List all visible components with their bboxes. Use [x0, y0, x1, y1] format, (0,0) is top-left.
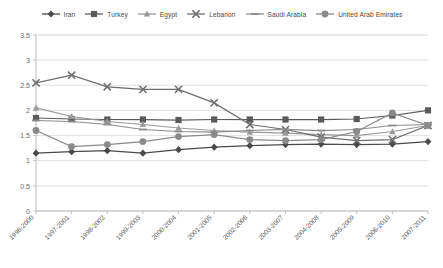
- marker-circle: [389, 110, 396, 117]
- marker-circle: [33, 127, 40, 134]
- marker-circle: [104, 141, 111, 148]
- x-tick-label: 2002-2006: [221, 214, 248, 241]
- x-tick-label: 2005-2009: [328, 214, 355, 241]
- marker-circle: [68, 143, 75, 150]
- series-line: [36, 142, 428, 154]
- legend-item-label: Iran: [64, 11, 76, 18]
- legend-marker-square-icon: [84, 9, 104, 19]
- chart-legend: IranTurkeyEgyptLebanonSaudi ArabiaUnited…: [0, 4, 443, 24]
- legend-marker-triangle-icon: [137, 9, 157, 19]
- x-tick-label: 2001-2005: [186, 214, 213, 241]
- legend-marker-cross-icon: [186, 9, 206, 19]
- x-tick-labels: 1996-20001997-20011998-20021999-20032000…: [7, 211, 428, 241]
- marker-square: [425, 107, 431, 113]
- chart-plot-area: 3.532.521.510.501996-20001997-20011998-2…: [0, 0, 443, 268]
- marker-circle: [353, 128, 360, 135]
- series-egypt: [33, 105, 431, 139]
- x-tick-label: 2006-2010: [364, 214, 391, 241]
- x-tick-label: 1999-2003: [114, 214, 141, 241]
- marker-square: [354, 116, 360, 122]
- marker-diamond: [47, 10, 54, 17]
- x-tick-label: 1998-2002: [79, 214, 106, 241]
- x-tick-label: 2007-2011: [400, 214, 427, 241]
- legend-symbol: [322, 11, 329, 18]
- legend-item-united-arab-emirates[interactable]: United Arab Emirates: [315, 9, 402, 19]
- legend-item-lebanon[interactable]: Lebanon: [186, 9, 235, 19]
- y-tick-label: 0.5: [20, 183, 30, 190]
- marker-square: [282, 116, 288, 122]
- series-iran: [33, 138, 432, 157]
- legend-item-label: Lebanon: [209, 11, 235, 18]
- y-tick-label: 3.5: [20, 32, 30, 39]
- marker-square: [91, 11, 97, 17]
- x-tick-label: 2004-2008: [293, 214, 320, 241]
- marker-square: [175, 117, 181, 123]
- legend-symbol: [47, 10, 54, 17]
- marker-circle: [322, 11, 329, 18]
- marker-diamond: [140, 150, 147, 157]
- line-chart: IranTurkeyEgyptLebanonSaudi ArabiaUnited…: [0, 0, 443, 268]
- x-tick-label: 2003-2007: [257, 214, 284, 241]
- y-tick-label: 2: [26, 107, 30, 114]
- x-tick-label: 1996-2000: [7, 214, 34, 241]
- marker-circle: [211, 131, 218, 138]
- legend-item-label: Turkey: [107, 11, 128, 18]
- y-tick-label: 1: [26, 157, 30, 164]
- marker-diamond: [211, 144, 218, 151]
- marker-diamond: [175, 146, 182, 153]
- y-tick-labels: 3.532.521.510.50: [20, 32, 36, 215]
- y-tick-label: 3: [26, 57, 30, 64]
- series-saudi-arabia: [32, 121, 432, 133]
- series-turkey: [33, 107, 431, 123]
- legend-item-label: United Arab Emirates: [338, 11, 402, 18]
- legend-marker-diamond-icon: [41, 9, 61, 19]
- marker-cross: [211, 99, 218, 106]
- x-tick-label: 1997-2001: [43, 214, 70, 241]
- legend-marker-circle-icon: [315, 9, 335, 19]
- marker-diamond: [33, 150, 40, 157]
- marker-square: [211, 116, 217, 122]
- marker-diamond: [425, 138, 432, 145]
- series-line: [36, 121, 428, 133]
- marker-circle: [246, 136, 253, 143]
- marker-circle: [425, 122, 432, 129]
- marker-diamond: [246, 142, 253, 149]
- marker-circle: [175, 133, 182, 140]
- marker-square: [318, 116, 324, 122]
- marker-circle: [282, 137, 289, 144]
- x-tick-label: 2000-2004: [150, 214, 177, 241]
- legend-item-turkey[interactable]: Turkey: [84, 9, 128, 19]
- legend-item-iran[interactable]: Iran: [41, 9, 76, 19]
- legend-item-label: Egypt: [160, 11, 177, 18]
- legend-marker-dash-icon: [245, 9, 265, 19]
- marker-triangle: [33, 105, 39, 111]
- legend-symbol: [91, 11, 97, 17]
- marker-diamond: [104, 147, 111, 154]
- series-line: [36, 110, 428, 120]
- legend-item-egypt[interactable]: Egypt: [137, 9, 177, 19]
- y-tick-label: 1.5: [20, 132, 30, 139]
- y-tick-label: 2.5: [20, 82, 30, 89]
- marker-circle: [318, 136, 325, 143]
- legend-item-saudi-arabia[interactable]: Saudi Arabia: [245, 9, 307, 19]
- marker-circle: [140, 138, 147, 145]
- legend-item-label: Saudi Arabia: [268, 11, 307, 18]
